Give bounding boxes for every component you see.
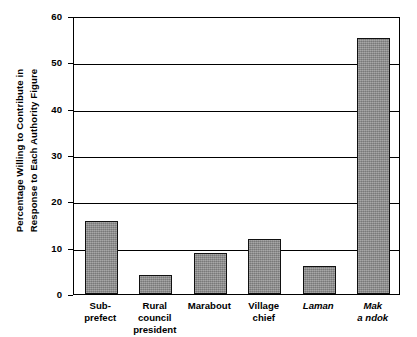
- y-axis-tick-mark: [68, 295, 73, 296]
- x-axis-tick-label: Rural councilpresident: [128, 300, 183, 336]
- x-axis-tick-label-line: Rural council: [128, 300, 183, 324]
- bar: [194, 253, 227, 294]
- x-axis-tick-label-line: Village: [237, 300, 292, 312]
- y-axis-title: Percentage Willing to Contribute in Resp…: [0, 0, 54, 300]
- x-axis-tick-label-line: Laman: [291, 300, 346, 312]
- bar-series: [74, 18, 399, 294]
- y-axis-tick-label: 40: [0, 105, 62, 115]
- x-axis-tick-label-line: president: [128, 324, 183, 336]
- bar: [357, 38, 390, 294]
- x-axis-tick-label-line: a ndok: [346, 312, 401, 324]
- bar-chart-figure: Percentage Willing to Contribute in Resp…: [0, 0, 417, 337]
- bar: [303, 266, 336, 294]
- y-axis-tick-label: 20: [0, 197, 62, 207]
- bar: [139, 275, 172, 294]
- y-axis-tick-label: 60: [0, 12, 62, 22]
- y-axis-tick-label: 30: [0, 151, 62, 161]
- x-axis-tick-label: Laman: [291, 300, 346, 312]
- x-axis-tick-label-line: Marabout: [182, 300, 237, 312]
- bar: [248, 239, 281, 294]
- x-axis-tick-label-line: Sub-: [73, 300, 128, 312]
- x-axis-tick-label: Marabout: [182, 300, 237, 312]
- x-axis-tick-label-line: Mak: [346, 300, 401, 312]
- x-axis-tick-label: Villagechief: [237, 300, 292, 324]
- y-axis-tick-label: 50: [0, 58, 62, 68]
- x-axis-tick-label: Maka ndok: [346, 300, 401, 324]
- x-axis-tick-label-line: chief: [237, 312, 292, 324]
- bar: [85, 221, 118, 294]
- x-axis-tick-label: Sub-prefect: [73, 300, 128, 324]
- y-axis-tick-label: 10: [0, 244, 62, 254]
- plot-area: [73, 17, 400, 295]
- x-axis-tick-label-line: prefect: [73, 312, 128, 324]
- y-axis-tick-label: 0: [0, 290, 62, 300]
